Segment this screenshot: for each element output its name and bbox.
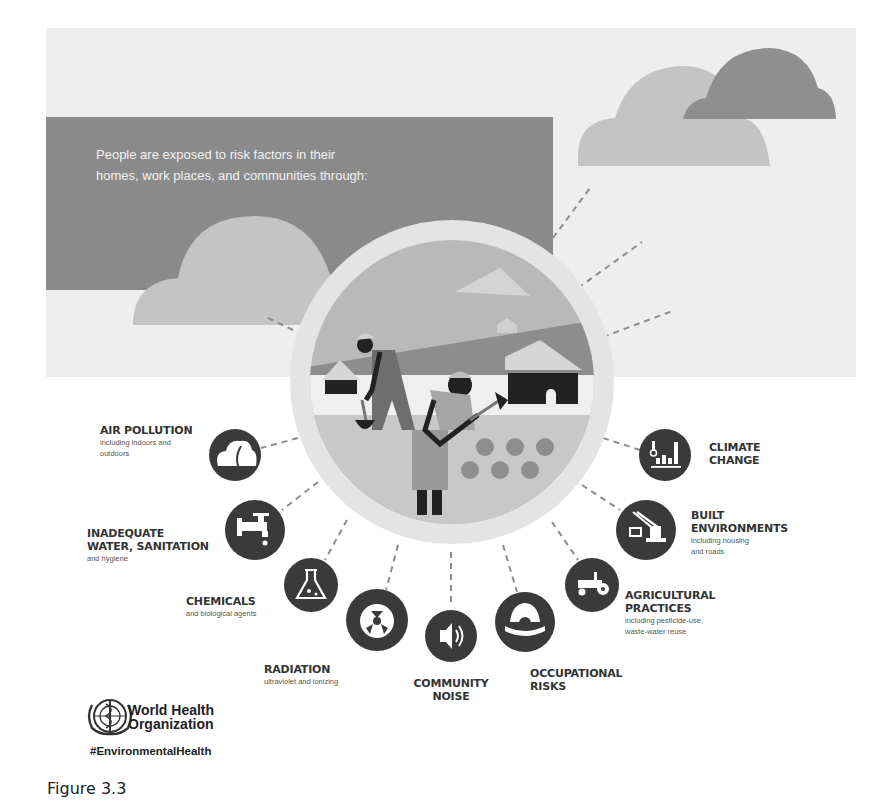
icon-crane [616,500,676,560]
icon-hard-hat [495,592,555,652]
label-occupational-risks: OCCUPATIONAL RISKS [530,667,622,693]
label-built-environments: BUILT ENVIRONMENTS including housing and… [691,509,788,557]
icon-thermometer-chart [639,429,691,481]
who-logo-text: World Health Organization [128,703,214,731]
label-community-noise: COMMUNITY NOISE [408,677,494,703]
icon-radiation [346,589,408,651]
icon-water-tap [225,500,285,560]
label-agricultural-practices: AGRICULTURAL PRACTICES including pestici… [625,589,715,637]
figure-caption: Figure 3.3 [47,779,126,798]
cloud-left [133,216,336,325]
label-climate-change: CLIMATE CHANGE [709,441,760,467]
label-chemicals: CHEMICALS and biological agents [186,595,256,619]
icon-flask [284,558,338,612]
icon-air-pollution [209,429,261,481]
hashtag: #EnvironmentalHealth [90,745,211,757]
icon-tractor [565,558,619,612]
label-water-sanitation: INADEQUATE WATER, SANITATION and hygiene [87,527,209,564]
who-emblem-icon [89,700,131,734]
icon-speaker [425,610,477,662]
label-radiation: RADIATION ultraviolet and ionizing [264,663,338,687]
central-scene [290,220,614,545]
label-air-pollution: AIR POLLUTION including indoors and outd… [100,424,192,459]
